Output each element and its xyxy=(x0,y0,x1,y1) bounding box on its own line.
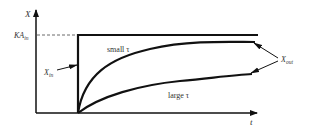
output-label: Xout xyxy=(280,55,293,65)
input-label: Xin xyxy=(43,68,53,78)
y-axis-label: X xyxy=(24,9,31,19)
level-label-sub: in xyxy=(24,35,29,41)
level-label-main: KA xyxy=(13,31,24,40)
large-tau-curve xyxy=(78,74,252,113)
small-tau-label: small τ xyxy=(107,45,130,54)
level-label: KAin xyxy=(13,31,29,41)
step-response-diagram: X t KAin small τ large τ Xin Xout xyxy=(0,0,312,130)
x-axis-label: t xyxy=(250,117,253,127)
output-label-sub: out xyxy=(286,59,294,65)
large-tau-label: large τ xyxy=(168,91,190,100)
input-pointer-arrow xyxy=(57,65,77,70)
small-tau-curve xyxy=(78,42,255,113)
input-label-sub: in xyxy=(49,72,54,78)
output-pointer-arrow-bottom xyxy=(251,61,278,73)
output-pointer-arrow-top xyxy=(254,43,278,58)
